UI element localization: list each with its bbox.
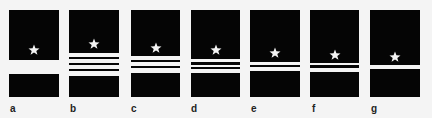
label-g: g (371, 103, 377, 114)
insignia-panel-a (9, 10, 59, 97)
stripe-1 (9, 60, 59, 74)
stripe-4 (69, 71, 119, 76)
insignia-panel-c (131, 10, 180, 97)
star-icon (88, 38, 100, 50)
label-a: a (10, 103, 16, 114)
stripe-1 (131, 56, 180, 60)
insignia-panel-b (69, 10, 119, 97)
star-icon (210, 44, 222, 56)
insignia-panel-e (250, 10, 300, 97)
star-icon (329, 49, 341, 61)
stripe-2 (250, 67, 300, 71)
label-c: c (131, 103, 137, 114)
label-e: e (251, 103, 257, 114)
stripe-1 (69, 53, 119, 57)
stripe-2 (310, 68, 359, 72)
label-d: d (191, 103, 197, 114)
stripe-1 (191, 59, 240, 62)
label-b: b (70, 103, 76, 114)
star-icon (150, 42, 162, 54)
star-icon (28, 44, 40, 56)
insignia-panel-d (191, 10, 240, 97)
stripe-2 (191, 65, 240, 67)
stripe-3 (69, 65, 119, 69)
insignia-panel-f (310, 10, 359, 97)
star-icon (269, 47, 281, 59)
stripe-2 (131, 62, 180, 66)
star-icon (389, 51, 401, 63)
insignia-panel-g (370, 10, 420, 97)
stripe-3 (191, 69, 240, 73)
stripe-1 (370, 65, 420, 69)
stripe-1 (310, 63, 359, 65)
stripe-1 (250, 62, 300, 65)
stripe-3 (131, 68, 180, 73)
stripe-2 (69, 59, 119, 63)
label-f: f (312, 103, 315, 114)
